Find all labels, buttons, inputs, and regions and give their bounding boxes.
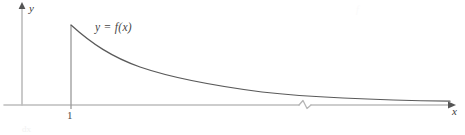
curve-equation-label: y = f(x)	[95, 22, 132, 34]
y-axis-arrowhead-icon	[19, 2, 26, 9]
axis-label-x: x	[452, 106, 457, 117]
figure-container: y x y = f(x) 1 f dx	[0, 0, 465, 135]
y-axis-group	[19, 2, 26, 105]
axis-label-y: y	[29, 3, 34, 14]
x-axis-group	[4, 101, 456, 109]
x-axis-tick-label-1: 1	[67, 110, 73, 121]
x-axis-break-zigzag-icon	[299, 101, 311, 109]
function-curve	[71, 25, 450, 101]
